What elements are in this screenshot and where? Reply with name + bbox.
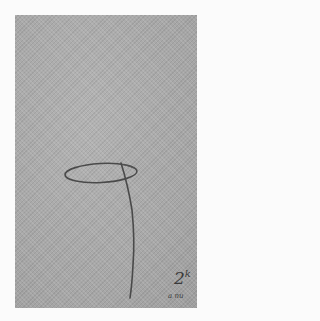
handwritten-annotation: 2k [174, 268, 191, 288]
descending-stroke [121, 163, 134, 298]
handwritten-subtext: a nu [168, 292, 183, 300]
